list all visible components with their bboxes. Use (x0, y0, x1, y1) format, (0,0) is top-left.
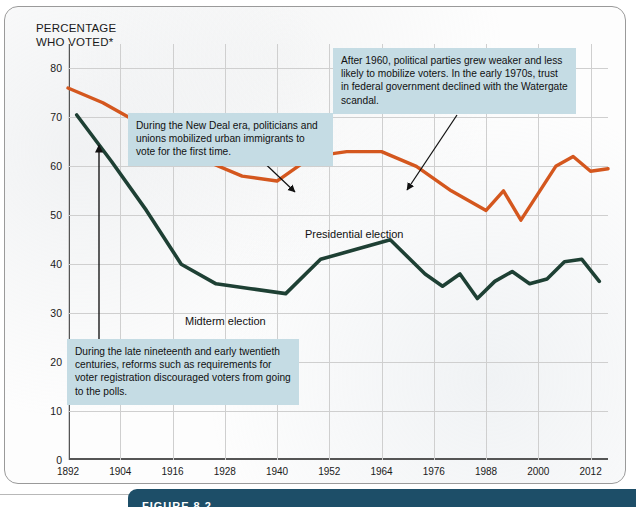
x-tick-label: 1904 (98, 466, 142, 477)
x-tick-label: 2000 (516, 466, 560, 477)
y-tick-label: 0 (32, 454, 62, 466)
x-tick-label: 1892 (46, 466, 90, 477)
x-tick-label: 1940 (255, 466, 299, 477)
y-tick-label: 40 (32, 258, 62, 270)
y-tick-label: 50 (32, 209, 62, 221)
x-tick-label: 2012 (569, 466, 613, 477)
x-tick-label: 1916 (151, 466, 195, 477)
y-tick-label: 20 (32, 356, 62, 368)
y-tick-label: 60 (32, 160, 62, 172)
y-tick-label: 70 (32, 111, 62, 123)
caption-divider (0, 494, 130, 495)
midterm-series-label: Midterm election (185, 315, 266, 327)
x-tick-label: 1964 (360, 466, 404, 477)
x-tick-label: 1988 (464, 466, 508, 477)
figure-caption-bar: FIGURE 8.2 (128, 489, 636, 507)
presidential-series-label: Presidential election (305, 228, 403, 240)
annotation-registration-reforms: During the late nineteenth and early twe… (67, 339, 299, 405)
y-tick-label: 30 (32, 307, 62, 319)
y-tick-label: 80 (32, 62, 62, 74)
x-tick-label: 1952 (307, 466, 351, 477)
x-tick-label: 1976 (412, 466, 456, 477)
y-tick-label: 10 (32, 405, 62, 417)
x-tick-label: 1928 (203, 466, 247, 477)
figure-caption-label: FIGURE 8.2 (142, 500, 212, 507)
annotation-new-deal: During the New Deal era, politicians and… (128, 113, 333, 166)
annotation-after-1960: After 1960, political parties grew weake… (333, 48, 576, 114)
